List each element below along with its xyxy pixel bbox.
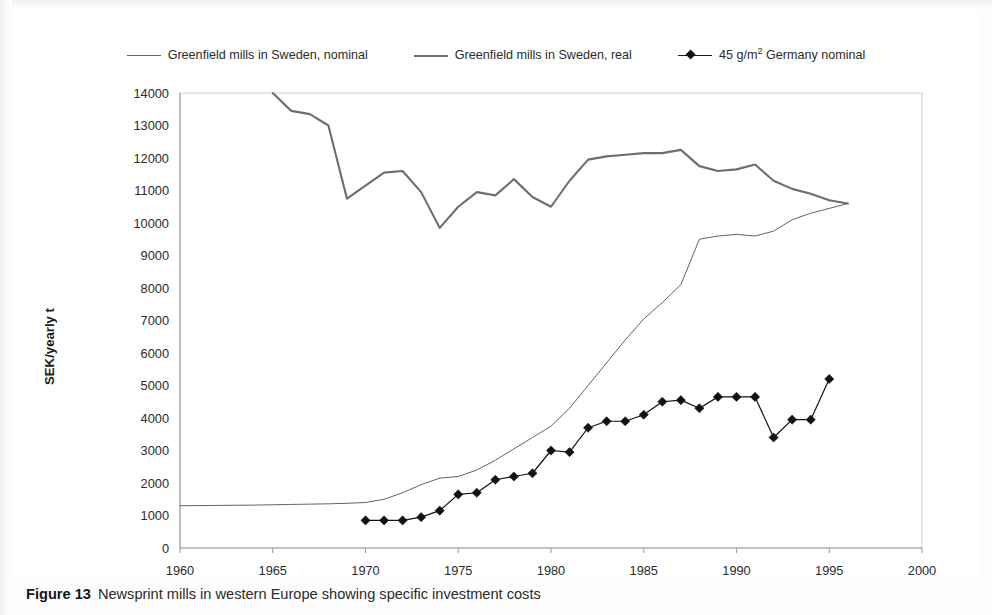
svg-text:1995: 1995: [815, 563, 843, 576]
svg-text:14000: 14000: [133, 86, 169, 101]
svg-text:2000: 2000: [908, 563, 936, 576]
svg-text:8000: 8000: [141, 281, 169, 296]
chart-container: Greenfield mills in Sweden, nominal Gree…: [12, 11, 980, 576]
svg-text:7000: 7000: [141, 313, 169, 328]
svg-text:10000: 10000: [133, 216, 169, 231]
chart-legend: Greenfield mills in Sweden, nominal Gree…: [12, 41, 980, 69]
page-edge-shading-left: [0, 0, 12, 615]
diamond-marker-swatch-icon: [678, 49, 712, 61]
line-swatch-icon: [127, 49, 161, 61]
svg-text:1000: 1000: [141, 508, 169, 523]
y-axis-tick-labels: 0100020003000400050006000700080009000100…: [133, 86, 169, 556]
svg-text:9000: 9000: [141, 248, 169, 263]
svg-text:13000: 13000: [133, 118, 169, 133]
axis-lines: [180, 93, 922, 548]
legend-item-sweden-real: Greenfield mills in Sweden, real: [414, 49, 632, 62]
svg-text:2000: 2000: [141, 476, 169, 491]
page-edge-shading-top: [0, 0, 992, 11]
svg-text:1960: 1960: [166, 563, 194, 576]
legend-item-germany-nominal: 45 g/m2 Germany nominal: [678, 49, 865, 62]
svg-text:4000: 4000: [141, 411, 169, 426]
figure-caption-text: Newsprint mills in western Europe showin…: [98, 586, 541, 602]
svg-text:1970: 1970: [351, 563, 379, 576]
figure-page: Greenfield mills in Sweden, nominal Gree…: [0, 0, 992, 615]
data-series-layer: [180, 93, 848, 525]
svg-text:1965: 1965: [259, 563, 287, 576]
svg-text:1990: 1990: [722, 563, 750, 576]
figure-number: Figure 13: [26, 586, 91, 602]
svg-text:1975: 1975: [444, 563, 472, 576]
svg-text:11000: 11000: [134, 183, 169, 198]
svg-text:5000: 5000: [141, 378, 169, 393]
svg-text:6000: 6000: [141, 346, 169, 361]
svg-text:12000: 12000: [133, 151, 169, 166]
x-axis-tick-labels: 196019651970197519801985199019952000: [166, 548, 936, 576]
legend-label-sweden-nominal: Greenfield mills in Sweden, nominal: [168, 49, 368, 62]
svg-text:0: 0: [162, 541, 169, 556]
svg-text:1980: 1980: [537, 563, 565, 576]
legend-item-sweden-nominal: Greenfield mills in Sweden, nominal: [127, 49, 368, 62]
svg-text:3000: 3000: [141, 443, 169, 458]
legend-label-germany-nominal: 45 g/m2 Germany nominal: [719, 49, 865, 62]
figure-caption: Figure 13Newsprint mills in western Euro…: [26, 586, 966, 602]
svg-text:1985: 1985: [630, 563, 658, 576]
y-axis-title: SEK/yearly t: [42, 307, 57, 385]
legend-label-sweden-real: Greenfield mills in Sweden, real: [455, 49, 632, 62]
thick-line-swatch-icon: [414, 49, 448, 61]
svg-text:SEK/yearly t: SEK/yearly t: [42, 307, 57, 385]
chart-plot-area: 0100020003000400050006000700080009000100…: [12, 69, 980, 576]
